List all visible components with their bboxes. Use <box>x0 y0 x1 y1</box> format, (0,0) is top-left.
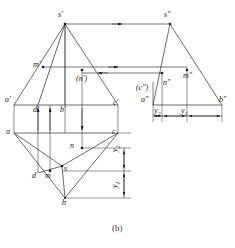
label-top-c: c <box>112 128 116 136</box>
label-front-b: b' <box>60 106 66 114</box>
label-front-c: c' <box>113 99 118 107</box>
label-dim-y2-side: y2 <box>154 107 161 117</box>
dim-y1-top-base: y <box>110 184 119 188</box>
label-dim-y1-side: y1 <box>181 107 188 117</box>
label-side-b: b" <box>219 96 226 104</box>
label-side-m: m" <box>183 72 192 80</box>
dim-y1-sub: 1 <box>185 111 188 117</box>
label-front-d: d' <box>33 106 39 114</box>
dim-y1-top-sub: 1 <box>115 181 121 184</box>
front-view-outline <box>14 24 118 105</box>
label-side-c: (c") <box>136 84 148 92</box>
label-front-a: a' <box>5 96 11 104</box>
label-side-a: a" <box>141 96 148 104</box>
label-dim-y1-top: y1 <box>111 181 121 188</box>
label-side-n: n" <box>163 79 170 87</box>
label-front-m: m' <box>33 61 41 69</box>
label-dim-y2-top: y2 <box>111 145 121 152</box>
projection-drawing <box>0 0 235 248</box>
side-view-outline <box>153 24 222 105</box>
label-top-a: a <box>6 128 10 136</box>
label-top-d: d <box>32 172 36 180</box>
figure-caption: (b) <box>112 224 123 233</box>
label-top-apex: s <box>64 165 67 173</box>
vertical-projectors <box>14 105 118 133</box>
label-top-b: b <box>62 199 66 207</box>
dim-y2-top-base: y <box>110 148 119 152</box>
label-front-n: (n') <box>76 75 87 83</box>
label-top-m: m <box>45 172 51 180</box>
dim-y2-sub: 2 <box>158 111 161 117</box>
label-top-n: n <box>70 142 74 150</box>
dim-y2-top-sub: 2 <box>115 145 121 148</box>
label-side-apex: s" <box>164 11 170 19</box>
label-front-apex: s' <box>58 11 63 19</box>
front-view-points <box>42 23 84 72</box>
figure-canvas: s' a' d' b' c' m' (n') a c b d m n s s" … <box>0 0 235 248</box>
